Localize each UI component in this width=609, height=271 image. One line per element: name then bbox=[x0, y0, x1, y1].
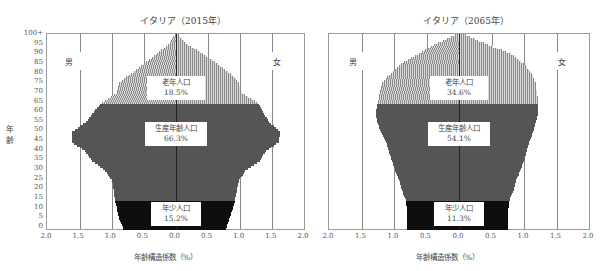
y-tick-label: 45 bbox=[21, 135, 43, 143]
x-tick-label: 1.0 bbox=[383, 232, 403, 240]
segment-value: 34.6% bbox=[430, 88, 488, 98]
segment-value: 66.3% bbox=[145, 134, 207, 144]
y-tick-label: 75 bbox=[21, 77, 43, 85]
y-tick-label: 15 bbox=[21, 193, 43, 201]
y-tick-label: 5 bbox=[21, 212, 43, 220]
x-tick-label: 2.0 bbox=[36, 232, 56, 240]
chart-title: イタリア（2015年） bbox=[140, 14, 210, 27]
segment-name: 生産年齢人口 bbox=[428, 124, 490, 134]
x-tick-label: 0.0 bbox=[448, 232, 468, 240]
x-axis-label: 年齢構造係数（%） bbox=[134, 251, 197, 262]
old-age-label: 老年人口 18.5% bbox=[147, 76, 205, 100]
segment-name: 老年人口 bbox=[430, 78, 488, 88]
x-axis-label: 年齢構造係数（%） bbox=[416, 251, 479, 262]
y-axis-label-char: 齢 bbox=[6, 135, 16, 146]
y-axis-label: 年 齢 bbox=[6, 124, 16, 146]
y-axis-label-char: 年 bbox=[6, 124, 16, 135]
working-age-label: 生産年齢人口 66.3% bbox=[145, 122, 207, 146]
y-tick-label: 85 bbox=[21, 58, 43, 66]
segment-value: 15.2% bbox=[151, 214, 201, 224]
plot-area: 男女 老年人口 34.6% 生産年齢人口 54.1% 年少人口 11.3% bbox=[328, 33, 590, 230]
segment-name: 生産年齢人口 bbox=[145, 124, 207, 134]
female-label: 女 bbox=[558, 56, 566, 67]
y-tick-label: 70 bbox=[21, 87, 43, 95]
x-tick-label: 2.0 bbox=[293, 232, 313, 240]
x-tick-label: 0.0 bbox=[165, 232, 185, 240]
y-tick-label: 65 bbox=[21, 97, 43, 105]
y-tick-label: 0 bbox=[21, 222, 43, 230]
female-label: 女 bbox=[273, 56, 281, 67]
y-tick-label: 30 bbox=[21, 164, 43, 172]
y-tick-label: 40 bbox=[21, 145, 43, 153]
y-tick-label: 25 bbox=[21, 174, 43, 182]
y-tick-label: 100+ bbox=[21, 29, 43, 37]
x-tick-label: 1.5 bbox=[351, 232, 371, 240]
segment-value: 11.3% bbox=[434, 214, 484, 224]
old-age-label: 老年人口 34.6% bbox=[430, 76, 488, 100]
y-tick-label: 20 bbox=[21, 183, 43, 191]
x-tick-label: 2.0 bbox=[578, 232, 598, 240]
segment-name: 年少人口 bbox=[151, 204, 201, 214]
gridline-gap bbox=[79, 52, 82, 70]
x-tick-label: 0.5 bbox=[197, 232, 217, 240]
x-tick-label: 0.5 bbox=[416, 232, 436, 240]
x-tick-label: 1.0 bbox=[229, 232, 249, 240]
x-tick-label: 2.0 bbox=[318, 232, 338, 240]
youth-label: 年少人口 15.2% bbox=[151, 202, 201, 226]
x-tick-label: 0.5 bbox=[481, 232, 501, 240]
chart-title: イタリア（2065年） bbox=[423, 14, 493, 27]
gridline-gap bbox=[361, 52, 364, 70]
x-tick-label: 1.0 bbox=[513, 232, 533, 240]
y-tick-label: 95 bbox=[21, 39, 43, 47]
segment-name: 年少人口 bbox=[434, 204, 484, 214]
segment-name: 老年人口 bbox=[147, 78, 205, 88]
plot-area: 男女 老年人口 18.5% 生産年齢人口 66.3% 年少人口 15.2% bbox=[46, 33, 305, 230]
segment-value: 54.1% bbox=[428, 134, 490, 144]
y-tick-label: 10 bbox=[21, 203, 43, 211]
youth-label: 年少人口 11.3% bbox=[434, 202, 484, 226]
segment-value: 18.5% bbox=[147, 88, 205, 98]
x-tick-label: 1.5 bbox=[68, 232, 88, 240]
male-label: 男 bbox=[65, 56, 73, 67]
x-tick-label: 1.5 bbox=[261, 232, 281, 240]
y-tick-label: 55 bbox=[21, 116, 43, 124]
x-tick-label: 1.0 bbox=[100, 232, 120, 240]
working-age-label: 生産年齢人口 54.1% bbox=[428, 122, 490, 146]
male-label: 男 bbox=[349, 56, 357, 67]
x-tick-label: 1.5 bbox=[546, 232, 566, 240]
y-tick-label: 90 bbox=[21, 48, 43, 56]
y-tick-label: 80 bbox=[21, 68, 43, 76]
y-tick-label: 50 bbox=[21, 125, 43, 133]
y-tick-label: 35 bbox=[21, 154, 43, 162]
x-tick-label: 0.5 bbox=[132, 232, 152, 240]
y-tick-label: 60 bbox=[21, 106, 43, 114]
